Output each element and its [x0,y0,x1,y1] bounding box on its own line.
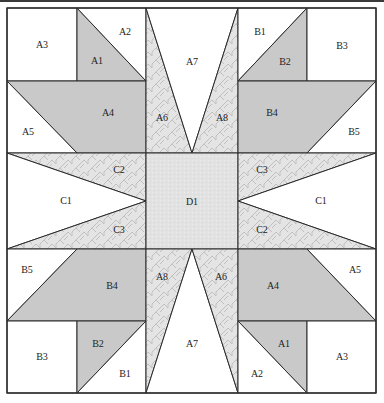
piece-label-top-a6: A6 [156,112,168,123]
piece-label-tr-b5: B5 [348,126,360,137]
piece-label-top-a8: A8 [216,112,228,123]
piece-label-br-a1: A1 [278,338,290,349]
piece-label-tr-b4: B4 [266,107,278,118]
piece-label-bl-b1: B1 [119,368,131,379]
piece-label-ml-c2: C2 [113,164,125,175]
piece-label-bl-b3: B3 [36,351,48,362]
piece-label-tl-a4: A4 [102,107,114,118]
piece-label-tr-b1: B1 [254,26,266,37]
piece-label-bot-a6: A6 [215,271,227,282]
piece-label-bl-b5: B5 [21,264,33,275]
piece-label-br-a5: A5 [349,264,361,275]
piece-label-br-a2: A2 [251,368,263,379]
piece-label-top-a7: A7 [186,56,198,67]
piece-label-tl-a2: A2 [119,26,131,37]
piece-label-ml-c3: C3 [113,224,125,235]
piece-label-br-a4: A4 [267,280,279,291]
piece-label-mr-c3: C3 [256,164,268,175]
piece-label-center-d1: D1 [186,196,198,207]
piece-label-mr-c2: C2 [256,224,268,235]
piece-label-bot-a7: A7 [186,338,198,349]
piece-label-tl-a5: A5 [22,126,34,137]
piece-label-tl-a3: A3 [36,39,48,50]
quilt-block-diagram: A3A1A2A4A5A6A7A8B1B2B3B4B5C2C1C3D1C3C1C2… [0,0,384,403]
piece-label-br-a3: A3 [336,351,348,362]
piece-label-ml-c1: C1 [60,195,72,206]
piece-label-bot-a8: A8 [156,271,168,282]
piece-label-tr-b3: B3 [336,40,348,51]
piece-label-bl-b4: B4 [106,280,118,291]
piece-label-tl-a1: A1 [91,55,103,66]
piece-label-bl-b2: B2 [92,338,104,349]
piece-label-mr-c1: C1 [315,195,327,206]
piece-label-tr-b2: B2 [279,56,291,67]
